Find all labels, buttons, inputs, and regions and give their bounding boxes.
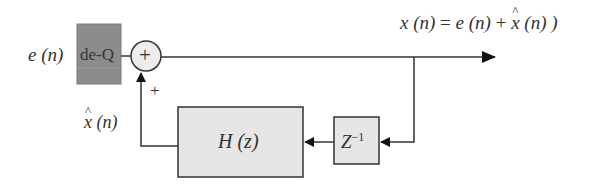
- feedback-branch-line: [381, 57, 414, 142]
- feedback-sign: +: [150, 81, 160, 101]
- prediction-arg: (n): [97, 112, 118, 132]
- output-xhat-arg: (n) ): [524, 12, 557, 33]
- output-e: e (n): [456, 12, 491, 33]
- filter-label: H (z): [218, 130, 259, 153]
- output-plus: +: [496, 12, 507, 33]
- prediction-var: x: [84, 112, 92, 133]
- adder-plus-symbol: +: [139, 43, 151, 68]
- delay-label: Z−1: [341, 130, 364, 153]
- output-eq: =: [440, 12, 451, 33]
- input-label: e (n): [28, 44, 63, 66]
- dequantizer-label: de-Q: [80, 45, 114, 65]
- delay-exponent: −1: [352, 130, 365, 144]
- delay-base: Z: [341, 131, 352, 152]
- output-equation: x (n) = e (n) + x (n) ): [400, 12, 558, 34]
- prediction-label: x (n): [84, 112, 118, 133]
- output-lhs: x (n): [400, 12, 435, 33]
- output-xhat: x: [511, 12, 519, 34]
